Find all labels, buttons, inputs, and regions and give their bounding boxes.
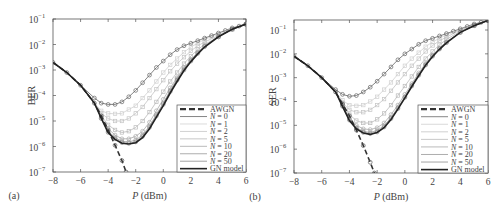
x-tick-label: 6: [486, 177, 491, 187]
y-axis-label: SER: [267, 87, 278, 106]
x-axis-label: P (dBm): [373, 191, 409, 203]
y-tick-label: 10−6: [270, 142, 287, 155]
y-axis-label: BER: [26, 85, 37, 105]
x-tick-label: −2: [131, 176, 141, 186]
y-tick-label: 10−6: [29, 140, 46, 153]
y-tick-label: 10−1: [270, 23, 286, 36]
x-tick-label: −2: [372, 177, 382, 187]
y-tick-label: 10−5: [270, 118, 286, 131]
x-tick-label: −6: [76, 176, 86, 186]
y-tick-label: 10−3: [29, 63, 45, 76]
panel-a-ber-chart: −8−6−4−2024610−710−610−510−410−310−210−1…: [8, 12, 248, 202]
series-line-awgn: [53, 62, 126, 172]
legend: AWGNN = 0N = 1N = 2N = 5N = 10N = 20N = …: [418, 105, 488, 174]
x-tick-label: 4: [216, 176, 221, 186]
figure: −8−6−4−2024610−710−610−510−410−310−210−1…: [0, 0, 503, 216]
y-tick-label: 10−7: [270, 166, 287, 179]
y-tick-label: 10−2: [29, 38, 45, 51]
x-tick-label: 4: [458, 177, 463, 187]
x-tick-label: −4: [103, 176, 113, 186]
y-tick-label: 10−7: [29, 165, 46, 178]
x-tick-label: 2: [430, 177, 435, 187]
y-tick-label: 10−5: [29, 114, 45, 127]
x-tick-label: −8: [48, 176, 58, 186]
x-tick-label: −4: [344, 177, 354, 187]
legend: AWGNN = 0N = 1N = 2N = 5N = 10N = 20N = …: [177, 105, 246, 174]
panel-b-ser-chart: −8−6−4−2024610−710−610−510−410−310−210−1…: [249, 19, 490, 203]
legend-entry-label: GN model: [451, 165, 485, 174]
x-tick-label: 0: [161, 176, 166, 186]
x-tick-label: −6: [317, 177, 327, 187]
y-tick-label: 10−2: [270, 47, 286, 60]
panel-label: (a): [8, 190, 19, 202]
y-tick-label: 10−3: [270, 71, 286, 84]
legend-entry-label: GN model: [210, 164, 244, 173]
panel-label: (b): [249, 191, 261, 203]
y-tick-label: 10−1: [29, 12, 45, 25]
x-tick-label: 6: [244, 176, 249, 186]
x-tick-label: −8: [289, 177, 299, 187]
x-axis-label: P (dBm): [131, 190, 167, 202]
x-tick-label: 0: [402, 177, 407, 187]
series-line-awgn: [294, 56, 374, 173]
x-tick-label: 2: [188, 176, 193, 186]
